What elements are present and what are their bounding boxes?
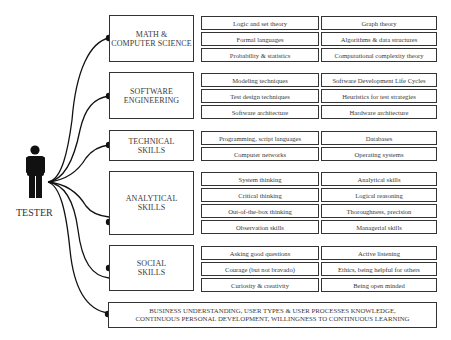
category-title: COMPUTER SCIENCE <box>111 39 192 48</box>
skill-box: Asking good questions <box>201 246 319 260</box>
link-analytical <box>48 182 109 217</box>
category-title: SKILLS <box>138 203 166 212</box>
skill-box: Computational complexity theory <box>321 48 437 62</box>
skill-box: Formal languages <box>201 32 319 46</box>
link-software <box>48 96 109 182</box>
link-math <box>48 38 109 182</box>
skill-box: Courage (but not bravado) <box>201 262 319 276</box>
skill-box: Thoroughness, precision <box>321 204 437 218</box>
skill-box: Modeling techniques <box>201 73 319 87</box>
skill-box: Hardware architecture <box>321 105 437 119</box>
skill-box: Computer networks <box>201 147 319 161</box>
skill-box: Managerial skills <box>321 220 437 234</box>
category-title: SKILLS <box>138 268 166 277</box>
category-title: ENGINEERING <box>124 96 179 105</box>
skill-box: Operating systems <box>321 147 437 161</box>
skill-box: Graph theory <box>321 16 437 30</box>
skill-box: Logic and set theory <box>201 16 319 30</box>
category-title: MATH & <box>136 30 168 39</box>
category-title: SOFTWARE <box>130 87 173 96</box>
skill-box: System thinking <box>201 172 319 186</box>
skill-box: Being open minded <box>321 278 437 292</box>
business-line-2: CONTINUOUS PERSONAL DEVELOPMENT, WILLING… <box>136 315 410 324</box>
category-technical-skills: TECHNICAL SKILLS <box>109 130 194 161</box>
business-understanding-box: BUSINESS UNDERSTANDING, USER TYPES & USE… <box>108 302 437 328</box>
tester-label: TESTER <box>16 207 53 218</box>
skill-box: Test design techniques <box>201 89 319 103</box>
skill-box: Logical reasoning <box>321 188 437 202</box>
category-social-skills: SOCIAL SKILLS <box>109 245 194 291</box>
category-software-engineering: SOFTWARE ENGINEERING <box>109 72 194 119</box>
skill-box: Curiosity & creativity <box>201 278 319 292</box>
skill-box: Probability & statistics <box>201 48 319 62</box>
category-title: SOCIAL <box>137 259 167 268</box>
category-title: SKILLS <box>138 146 166 155</box>
skill-box: Active listening <box>321 246 437 260</box>
skill-box: Observation skills <box>201 220 319 234</box>
skill-box: Ethics, being helpful for others <box>321 262 437 276</box>
category-math-computer-science: MATH & COMPUTER SCIENCE <box>109 15 194 62</box>
person-icon <box>26 145 45 198</box>
skill-box: Heuristics for test strategies <box>321 89 437 103</box>
skill-box: Software architecture <box>201 105 319 119</box>
category-title: ANALYTICAL <box>126 194 178 203</box>
business-line-1: BUSINESS UNDERSTANDING, USER TYPES & USE… <box>149 307 396 316</box>
skill-box: Analytical skills <box>321 172 437 186</box>
skill-box: Algorithms & data structures <box>321 32 437 46</box>
link-business <box>48 182 108 313</box>
skill-box: Programming, script languages <box>201 131 319 145</box>
skill-box: Databases <box>321 131 437 145</box>
category-title: TECHNICAL <box>128 137 174 146</box>
skill-box: Critical thinking <box>201 188 319 202</box>
category-analytical-skills: ANALYTICAL SKILLS <box>109 171 194 235</box>
skill-box: Out-of-the-box thinking <box>201 204 319 218</box>
skill-box: Software Development Life Cycles <box>321 73 437 87</box>
